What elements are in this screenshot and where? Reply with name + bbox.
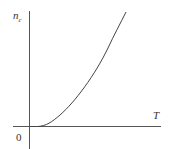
x-axis-label: T (153, 110, 159, 121)
y-label-subscript: c (19, 16, 22, 24)
nc-curve (30, 12, 126, 127)
plot-canvas (0, 0, 169, 149)
y-axis-label: nc (13, 10, 22, 24)
origin-label: 0 (16, 132, 22, 143)
